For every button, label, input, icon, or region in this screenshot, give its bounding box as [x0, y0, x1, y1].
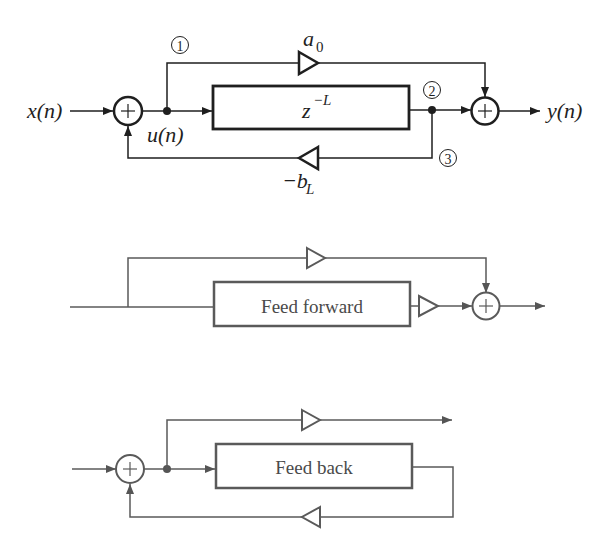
feed-forward-diagram: Feed forward	[70, 248, 545, 326]
feed-back-label: Feed back	[275, 457, 353, 478]
svg-text:3: 3	[445, 152, 452, 167]
node-label-u: u(n)	[147, 122, 184, 147]
feedforward-gain-triangle	[299, 52, 318, 74]
feedback-gain-triangle	[299, 147, 318, 169]
svg-text:z: z	[301, 98, 311, 123]
ff-adder	[473, 293, 500, 320]
svg-text:a: a	[303, 26, 314, 51]
feed-forward-label: Feed forward	[261, 296, 363, 317]
input-label: x(n)	[26, 98, 62, 123]
diagram-canvas: x(n) u(n) a 0 1 z −L	[0, 0, 614, 547]
comb-filter-diagram: x(n) u(n) a 0 1 z −L	[26, 26, 582, 197]
adder-input	[114, 97, 142, 125]
svg-text:−b: −b	[282, 168, 308, 193]
ff-bypass-gain-triangle	[307, 248, 325, 268]
node-marker-3: 3	[440, 150, 457, 167]
ff-output-gain-triangle	[419, 296, 438, 316]
node-marker-1: 1	[172, 37, 189, 54]
fb-forward-gain-triangle	[302, 410, 320, 430]
svg-text:1: 1	[177, 39, 184, 54]
svg-text:L: L	[305, 181, 314, 197]
fb-adder	[116, 455, 144, 483]
feedback-gain-label: −b L	[282, 168, 314, 197]
svg-text:−L: −L	[313, 92, 331, 108]
node-marker-2: 2	[424, 82, 441, 99]
svg-text:0: 0	[316, 39, 324, 55]
delay-block	[213, 86, 409, 129]
feed-back-diagram: Feed back	[72, 410, 453, 527]
fb-feedback-gain-triangle	[302, 507, 320, 527]
output-label: y(n)	[545, 98, 582, 123]
adder-output	[472, 98, 499, 125]
feedforward-gain-label: a 0	[303, 26, 324, 55]
svg-text:2: 2	[429, 84, 436, 99]
